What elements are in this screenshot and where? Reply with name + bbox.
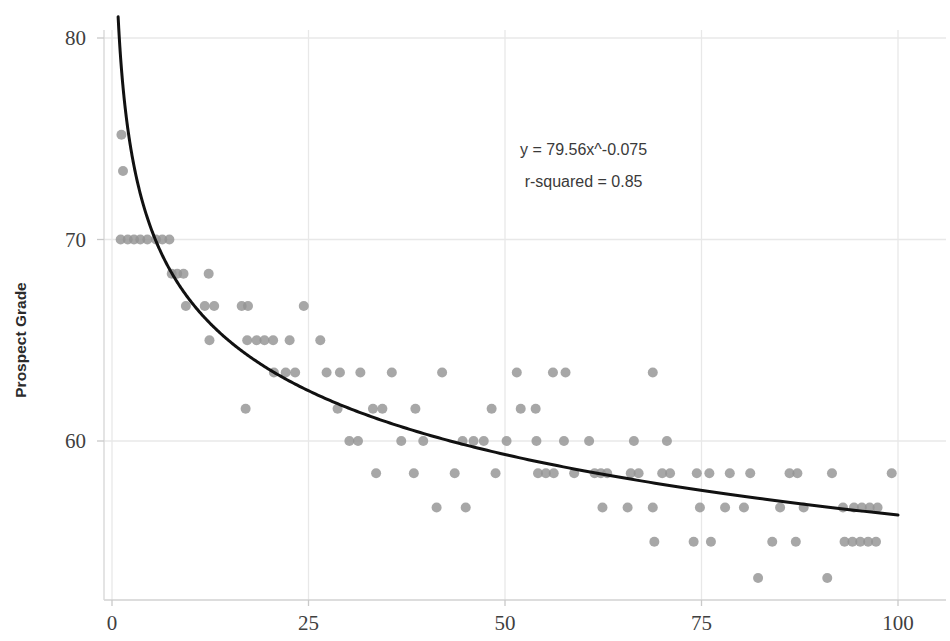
data-point: [285, 335, 295, 345]
x-axis-tick-labels: 0255075100: [107, 600, 914, 635]
data-point: [290, 367, 300, 377]
data-point: [792, 468, 802, 478]
data-point: [315, 335, 325, 345]
data-point: [437, 367, 447, 377]
data-point: [634, 468, 644, 478]
y-axis-title: Prospect Grade: [12, 282, 29, 398]
x-tick-label: 75: [691, 611, 712, 635]
data-point: [461, 502, 471, 512]
data-point: [549, 468, 559, 478]
data-point: [200, 301, 210, 311]
data-point: [164, 235, 174, 245]
data-point: [469, 436, 479, 446]
data-point: [259, 335, 269, 345]
data-point: [118, 166, 128, 176]
data-point: [353, 436, 363, 446]
data-point: [387, 367, 397, 377]
data-point: [648, 502, 658, 512]
data-point: [368, 404, 378, 414]
data-point: [299, 301, 309, 311]
x-tick-label: 0: [107, 611, 118, 635]
data-point: [648, 367, 658, 377]
equation-annotation: y = 79.56x^-0.075r-squared = 0.85: [520, 141, 647, 190]
data-point: [871, 537, 881, 547]
data-point: [767, 537, 777, 547]
data-point: [720, 502, 730, 512]
data-point: [242, 335, 252, 345]
x-tick-label: 25: [298, 611, 319, 635]
data-point: [827, 468, 837, 478]
data-point: [142, 235, 152, 245]
data-point: [559, 436, 569, 446]
data-point: [662, 436, 672, 446]
data-point: [629, 436, 639, 446]
data-point: [584, 436, 594, 446]
data-point: [502, 436, 512, 446]
data-point: [822, 573, 832, 583]
data-point: [491, 468, 501, 478]
data-point: [745, 468, 755, 478]
data-point: [181, 301, 191, 311]
chart-canvas: 607080 0255075100 y = 79.56x^-0.075r-squ…: [0, 0, 950, 641]
y-tick-label: 80: [65, 26, 86, 50]
data-point: [479, 436, 489, 446]
data-point: [775, 502, 785, 512]
data-point: [487, 404, 497, 414]
x-tick-label: 50: [495, 611, 516, 635]
data-point: [561, 367, 571, 377]
data-point: [410, 404, 420, 414]
y-axis-tick-labels: 607080: [65, 26, 104, 453]
data-point: [418, 436, 428, 446]
data-point: [548, 367, 558, 377]
data-point: [371, 468, 381, 478]
y-tick-label: 60: [65, 429, 86, 453]
x-tick-label: 100: [882, 611, 914, 635]
data-point: [322, 367, 332, 377]
data-point: [204, 269, 214, 279]
data-point: [241, 404, 251, 414]
data-point: [344, 436, 354, 446]
data-point: [432, 502, 442, 512]
data-point: [450, 468, 460, 478]
data-point: [179, 269, 189, 279]
annotation-line: r-squared = 0.85: [525, 173, 643, 190]
data-point: [739, 502, 749, 512]
data-point: [512, 367, 522, 377]
data-point: [204, 335, 214, 345]
data-point: [409, 468, 419, 478]
data-point: [649, 537, 659, 547]
data-point: [887, 468, 897, 478]
data-point: [377, 404, 387, 414]
y-tick-label: 70: [65, 228, 86, 252]
data-point: [335, 367, 345, 377]
data-points: [116, 130, 897, 583]
scatter-chart: 607080 0255075100 y = 79.56x^-0.075r-squ…: [0, 0, 950, 641]
data-point: [623, 502, 633, 512]
data-point: [597, 502, 607, 512]
data-point: [695, 502, 705, 512]
data-point: [791, 537, 801, 547]
data-point: [531, 436, 541, 446]
data-point: [692, 468, 702, 478]
annotation-line: y = 79.56x^-0.075: [520, 141, 647, 158]
data-point: [531, 404, 541, 414]
grid-lines: [104, 30, 946, 600]
data-point: [665, 468, 675, 478]
data-point: [689, 537, 699, 547]
data-point: [396, 436, 406, 446]
data-point: [243, 301, 253, 311]
data-point: [209, 301, 219, 311]
data-point: [706, 537, 716, 547]
data-point: [704, 468, 714, 478]
data-point: [355, 367, 365, 377]
data-point: [268, 335, 278, 345]
data-point: [753, 573, 763, 583]
axis-lines: [104, 30, 946, 600]
data-point: [116, 130, 126, 140]
data-point: [725, 468, 735, 478]
data-point: [516, 404, 526, 414]
